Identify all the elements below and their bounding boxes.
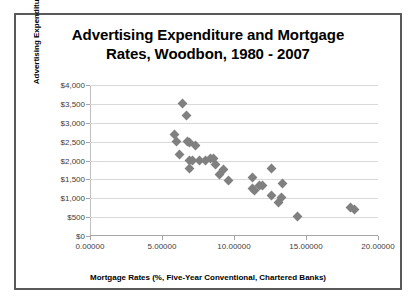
- gridline: [90, 161, 378, 162]
- data-point: [182, 110, 192, 120]
- x-tick-label: 15.00000: [289, 242, 322, 251]
- y-tick-mark: [86, 123, 90, 124]
- data-point: [177, 99, 187, 109]
- x-tick-mark: [234, 236, 235, 240]
- y-tick-label: $500: [67, 213, 85, 222]
- x-tick-mark: [306, 236, 307, 240]
- y-tick-mark: [86, 104, 90, 105]
- y-tick-label: $1,000: [61, 194, 85, 203]
- chart-title: Advertising Expenditure and Mortgage Rat…: [16, 25, 400, 63]
- data-point: [292, 211, 302, 221]
- gridline: [90, 123, 378, 124]
- x-tick-label: 5.00000: [148, 242, 177, 251]
- x-tick-mark: [90, 236, 91, 240]
- x-tick-mark: [378, 236, 379, 240]
- chart-frame: Advertising Expenditure and Mortgage Rat…: [14, 13, 402, 290]
- data-point: [174, 150, 184, 160]
- y-tick-mark: [86, 198, 90, 199]
- y-tick-label: $1,500: [61, 175, 85, 184]
- y-tick-label: $0: [76, 232, 85, 241]
- y-tick-label: $3,000: [61, 118, 85, 127]
- y-tick-label: $4,000: [61, 81, 85, 90]
- chart-title-line-1: Advertising Expenditure and Mortgage: [16, 25, 400, 44]
- data-point: [248, 173, 258, 183]
- x-tick-mark: [162, 236, 163, 240]
- gridline: [90, 217, 378, 218]
- gridline: [90, 104, 378, 105]
- data-point: [350, 205, 360, 215]
- gridline: [90, 142, 378, 143]
- y-tick-mark: [86, 85, 90, 86]
- y-tick-mark: [86, 142, 90, 143]
- y-tick-mark: [86, 217, 90, 218]
- plot-area: $0$500$1,000$1,500$2,000$2,500$3,000$3,5…: [90, 85, 378, 236]
- gridline: [90, 85, 378, 86]
- y-tick-mark: [86, 161, 90, 162]
- y-tick-label: $2,500: [61, 137, 85, 146]
- x-tick-label: 20.00000: [361, 242, 394, 251]
- x-tick-label: 0.00000: [76, 242, 105, 251]
- chart-title-line-2: Rates, Woodbon, 1980 - 2007: [16, 44, 400, 63]
- y-tick-label: $2,000: [61, 156, 85, 165]
- x-axis-label: Mortgage Rates (%, Five-Year Conventiona…: [16, 273, 400, 282]
- data-point: [223, 175, 233, 185]
- y-tick-mark: [86, 179, 90, 180]
- data-point: [171, 137, 181, 147]
- y-axis-label: Advertising Expenditure: [32, 0, 41, 98]
- y-tick-label: $3,500: [61, 99, 85, 108]
- data-point: [266, 163, 276, 173]
- gridline: [90, 179, 378, 180]
- gridline: [90, 198, 378, 199]
- x-tick-label: 10.00000: [217, 242, 250, 251]
